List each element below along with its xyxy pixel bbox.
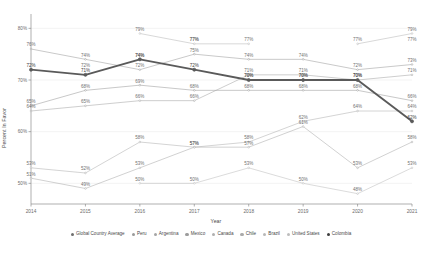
data-point-marker[interactable]	[248, 89, 250, 91]
data-point-marker[interactable]	[302, 126, 304, 128]
data-point-marker[interactable]	[30, 110, 32, 112]
x-axis-tick-label: 2014	[26, 209, 37, 214]
data-point-label: 72%	[135, 63, 144, 68]
data-point-marker[interactable]	[302, 79, 305, 82]
data-point-marker[interactable]	[139, 33, 141, 35]
data-point-marker[interactable]	[248, 167, 250, 169]
data-point-marker[interactable]	[84, 73, 87, 76]
data-point-marker[interactable]	[85, 58, 87, 60]
data-point-marker[interactable]	[30, 68, 33, 71]
data-point-label: 53%	[135, 161, 144, 166]
data-point-marker[interactable]	[30, 177, 32, 179]
data-point-marker[interactable]	[357, 69, 359, 71]
data-point-label: 66%	[190, 94, 199, 99]
legend-item-label: Global Country Average	[76, 232, 125, 237]
data-point-label: 57%	[190, 141, 199, 146]
legend-item[interactable]: Peru	[132, 232, 147, 237]
data-point-marker[interactable]	[139, 84, 141, 86]
data-point-label: 77%	[244, 37, 253, 42]
data-point-marker[interactable]	[357, 43, 359, 45]
data-point-marker[interactable]	[139, 141, 141, 143]
data-point-marker[interactable]	[138, 58, 141, 61]
data-point-marker[interactable]	[302, 182, 304, 184]
legend-item[interactable]: Chile	[240, 232, 256, 237]
x-axis-tick-label: 2018	[243, 209, 254, 214]
data-point-marker[interactable]	[193, 182, 195, 184]
legend-item[interactable]: Global Country Average	[71, 232, 125, 237]
data-point-marker[interactable]	[411, 64, 413, 66]
legend-item[interactable]: Canada	[212, 232, 233, 237]
legend-item-label: Canada	[217, 232, 233, 237]
data-point-marker[interactable]	[248, 146, 250, 148]
x-axis-tick-label: 2021	[407, 209, 418, 214]
data-point-label: 70%	[299, 73, 308, 78]
data-point-label: 58%	[407, 135, 416, 140]
data-point-label: 74%	[299, 53, 308, 58]
data-point-label: 68%	[299, 84, 308, 89]
legend-marker-icon	[154, 233, 157, 236]
series-line	[31, 127, 412, 189]
legend-item[interactable]: Colombia	[327, 232, 352, 237]
data-point-label: 74%	[81, 53, 90, 58]
data-point-marker[interactable]	[356, 79, 359, 82]
legend-item-label: Peru	[137, 232, 147, 237]
legend-item-label: Argentina	[159, 232, 179, 237]
legend-item-label: United States	[292, 232, 320, 237]
y-axis-tick-label: 50%	[18, 181, 27, 186]
data-point-label: 64%	[407, 104, 416, 109]
data-point-label: 53%	[407, 161, 416, 166]
data-point-marker[interactable]	[411, 167, 413, 169]
data-point-marker[interactable]	[30, 48, 32, 50]
data-point-marker[interactable]	[30, 167, 32, 169]
legend-item-label: Chile	[246, 232, 256, 237]
data-point-marker[interactable]	[411, 110, 413, 112]
data-point-marker[interactable]	[85, 89, 87, 91]
data-point-marker[interactable]	[193, 146, 195, 148]
x-axis-tick-label: 2015	[80, 209, 91, 214]
legend-item[interactable]: Brazil	[263, 232, 280, 237]
data-point-marker[interactable]	[357, 89, 359, 91]
data-point-label: 61%	[299, 120, 308, 125]
data-point-marker[interactable]	[85, 188, 87, 190]
data-point-marker[interactable]	[411, 74, 413, 76]
data-point-marker[interactable]	[85, 172, 87, 174]
data-point-label: 72%	[190, 63, 199, 68]
x-axis-tick-label: 2019	[298, 209, 309, 214]
data-point-marker[interactable]	[302, 58, 304, 60]
data-point-label: 71%	[81, 68, 90, 73]
data-point-marker[interactable]	[357, 110, 359, 112]
data-point-marker[interactable]	[139, 69, 141, 71]
legend-item[interactable]: Mexico	[185, 232, 205, 237]
legend-marker-icon	[263, 233, 266, 236]
legend-marker-icon	[185, 233, 188, 236]
data-point-marker[interactable]	[248, 58, 250, 60]
data-point-label: 62%	[407, 115, 416, 120]
data-point-marker[interactable]	[139, 167, 141, 169]
data-point-marker[interactable]	[193, 53, 195, 55]
data-point-marker[interactable]	[411, 33, 413, 35]
data-point-marker[interactable]	[411, 100, 413, 102]
data-point-marker[interactable]	[247, 79, 250, 82]
data-point-marker[interactable]	[139, 182, 141, 184]
data-point-label: 64%	[26, 104, 35, 109]
data-point-label: 77%	[353, 37, 362, 42]
data-point-marker[interactable]	[193, 100, 195, 102]
legend-item[interactable]: United States	[287, 232, 320, 237]
data-point-label: 71%	[407, 68, 416, 73]
line-chart: 80%70%60%50%2014201520162017201820192020…	[0, 0, 422, 255]
data-point-marker[interactable]	[411, 141, 413, 143]
data-point-marker[interactable]	[302, 89, 304, 91]
data-point-marker[interactable]	[139, 100, 141, 102]
data-point-marker[interactable]	[357, 167, 359, 169]
data-point-marker[interactable]	[248, 43, 250, 45]
legend-item[interactable]: Argentina	[154, 232, 179, 237]
data-point-label: 70%	[244, 73, 253, 78]
data-point-marker[interactable]	[193, 68, 196, 71]
legend-marker-icon	[327, 233, 330, 236]
data-point-marker[interactable]	[357, 193, 359, 195]
data-point-marker[interactable]	[411, 120, 414, 123]
data-point-marker[interactable]	[193, 43, 195, 45]
data-point-marker[interactable]	[193, 89, 195, 91]
data-point-label: 68%	[190, 84, 199, 89]
data-point-marker[interactable]	[85, 105, 87, 107]
